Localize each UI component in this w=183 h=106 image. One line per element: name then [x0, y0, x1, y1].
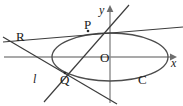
label-point-q: Q [60, 73, 69, 86]
label-point-r: R [16, 30, 25, 43]
line-r-q [3, 37, 117, 104]
geometry-figure: R P Q O y x l C [0, 0, 183, 106]
x-axis [4, 53, 177, 60]
label-origin-o: O [100, 51, 109, 64]
figure-canvas [0, 0, 183, 106]
label-point-p: P [84, 18, 91, 31]
line-r-p [3, 27, 183, 42]
label-line-l: l [33, 73, 36, 85]
label-axis-y: y [99, 4, 104, 16]
y-axis-arrowhead [107, 5, 114, 12]
label-curve-c: C [138, 73, 147, 86]
label-axis-x: x [171, 57, 176, 69]
